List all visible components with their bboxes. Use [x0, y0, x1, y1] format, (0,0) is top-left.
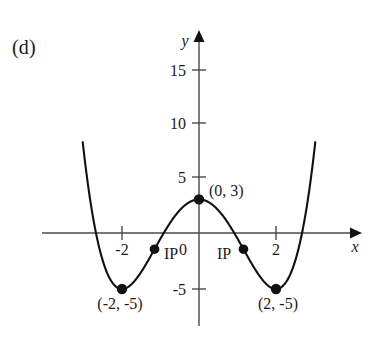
- x-tick-label-minus-2: -2: [115, 241, 128, 258]
- y-tick-label-5: 5: [178, 169, 186, 186]
- x-axis: [42, 228, 362, 239]
- label-left-min: (-2, -5): [97, 295, 142, 313]
- point-left-min: [117, 284, 127, 294]
- x-axis-label: x: [350, 238, 358, 255]
- label-inflection-right: IP: [217, 245, 231, 262]
- label-local-max: (0, 3): [209, 182, 244, 200]
- x-tick-label-2: 2: [272, 241, 280, 258]
- y-tick-label-minus-5: -5: [173, 281, 186, 298]
- x-axis-arrowhead: [350, 228, 362, 239]
- label-inflection-left: IP: [164, 245, 178, 262]
- figure-panel: (d) 15 10 5 -5 -2 2: [0, 0, 380, 338]
- y-tick-label-10: 10: [170, 115, 186, 132]
- point-right-min: [271, 284, 281, 294]
- point-inflection-left: [150, 244, 160, 254]
- y-axis-label: y: [179, 32, 189, 50]
- y-axis: [194, 30, 205, 326]
- point-local-max: [194, 194, 204, 204]
- plot-svg: 15 10 5 -5 -2 2 0 y x (0, 3) (-2, -5) (2…: [0, 0, 380, 338]
- y-tick-label-15: 15: [170, 62, 186, 79]
- label-right-min: (2, -5): [258, 295, 298, 313]
- y-axis-arrowhead: [194, 30, 205, 42]
- origin-label: 0: [179, 241, 187, 258]
- point-inflection-right: [239, 244, 249, 254]
